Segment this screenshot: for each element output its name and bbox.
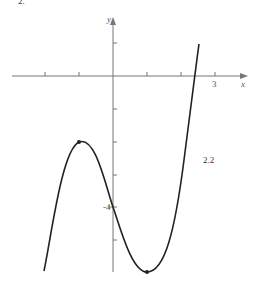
- figure-corner-mark: 2.: [18, 0, 25, 6]
- x-axis-label: x: [240, 79, 245, 89]
- figure-number-label: 2.2: [203, 155, 214, 165]
- local-max-point: [77, 140, 81, 144]
- y-tick-label-neg4: -4: [103, 202, 111, 212]
- local-min-point: [145, 270, 149, 274]
- x-axis-ticks: [45, 72, 215, 76]
- y-axis: y -4: [103, 14, 117, 272]
- function-curve: [44, 44, 199, 272]
- graph-canvas: 2. 3 x y -4 2.2: [0, 0, 260, 287]
- x-axis: 3 x: [12, 72, 248, 89]
- x-tick-label-3: 3: [212, 79, 217, 89]
- y-axis-label: y: [106, 14, 111, 24]
